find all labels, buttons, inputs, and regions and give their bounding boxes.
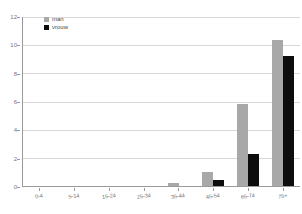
x-tickmark — [283, 188, 284, 191]
x-category: 15-24 — [92, 188, 127, 214]
x-category: 65-74 — [231, 188, 266, 214]
x-axis: 0-45-1415-2425-3435-4445-5465-7475+ — [22, 188, 300, 214]
x-category: 5-14 — [57, 188, 92, 214]
x-tick-label: 0-4 — [35, 193, 44, 200]
y-axis: 12 10 8 6 4 2 0 — [0, 17, 20, 187]
x-category: 25-34 — [126, 188, 161, 214]
x-tick-label: 75+ — [278, 193, 288, 200]
y-tickmark-4 — [17, 130, 20, 131]
x-tick-label: 25-34 — [136, 193, 151, 200]
y-tick-label-10: 10 — [10, 42, 17, 48]
x-tick-label: 65-74 — [241, 193, 256, 200]
x-tickmark — [74, 188, 75, 191]
bar-chart: 12 10 8 6 4 2 0 0-45-1415-2425-3435-4445… — [0, 0, 302, 214]
legend-label-vrouw: vrouw — [52, 24, 68, 30]
bars-layer — [23, 17, 300, 186]
bar-group — [162, 17, 197, 186]
x-tickmark — [144, 188, 145, 191]
bar-man[interactable] — [237, 104, 248, 186]
x-tickmark — [39, 188, 40, 191]
bar-man[interactable] — [168, 183, 179, 186]
x-tick-label: 45-54 — [206, 193, 221, 200]
x-tickmark — [109, 188, 110, 191]
bar-man[interactable] — [202, 172, 213, 186]
bar-group — [265, 17, 300, 186]
y-tickmark-6 — [17, 102, 20, 103]
y-tickmark-10 — [17, 45, 20, 46]
x-tick-label: 35-44 — [171, 193, 186, 200]
bar-man[interactable] — [272, 40, 283, 186]
x-tickmark — [213, 188, 214, 191]
bar-group — [196, 17, 231, 186]
x-category: 0-4 — [22, 188, 57, 214]
y-tickmark-12 — [17, 17, 20, 18]
legend-item-vrouw[interactable]: vrouw — [44, 24, 68, 30]
bar-group — [23, 17, 58, 186]
bar-group — [231, 17, 266, 186]
y-tick-label-12: 12 — [10, 14, 17, 20]
bar-vrouw[interactable] — [283, 56, 294, 186]
x-tickmark — [248, 188, 249, 191]
bar-group — [58, 17, 93, 186]
bar-group — [127, 17, 162, 186]
chart-legend: man vrouw — [44, 16, 68, 30]
bar-vrouw[interactable] — [248, 154, 259, 186]
plot-area — [22, 17, 300, 187]
bar-group — [92, 17, 127, 186]
bar-vrouw[interactable] — [213, 180, 224, 186]
x-tick-label: 15-24 — [102, 193, 117, 200]
y-tickmark-0 — [17, 187, 20, 188]
y-tickmark-2 — [17, 159, 20, 160]
legend-label-man: man — [52, 16, 64, 22]
x-tick-label: 5-14 — [68, 193, 80, 200]
legend-item-man[interactable]: man — [44, 16, 68, 22]
x-category: 35-44 — [161, 188, 196, 214]
x-tickmark — [178, 188, 179, 191]
legend-swatch-man-icon — [44, 17, 49, 22]
y-tickmark-8 — [17, 74, 20, 75]
x-category: 75+ — [265, 188, 300, 214]
x-category: 45-54 — [196, 188, 231, 214]
legend-swatch-vrouw-icon — [44, 25, 49, 30]
